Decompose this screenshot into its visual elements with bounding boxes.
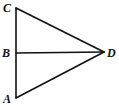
label-B: B [1, 46, 10, 60]
label-D: D [106, 46, 116, 60]
segment-AD [16, 52, 104, 98]
label-C: C [3, 1, 12, 15]
geometry-diagram: C B A D [0, 0, 119, 105]
label-A: A [2, 92, 11, 105]
segment-BD [16, 52, 104, 53]
segment-CD [16, 8, 104, 52]
